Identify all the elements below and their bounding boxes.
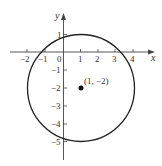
x-tick-label: 3 <box>112 54 117 64</box>
x-axis-label: x <box>150 52 156 63</box>
center-point-label: (1, −2) <box>84 76 109 86</box>
y-tick-label: 1 <box>57 30 62 40</box>
center-point <box>79 86 84 91</box>
x-tick-label: 2 <box>95 54 100 64</box>
y-tick-label: −4 <box>51 119 61 129</box>
y-tick-label: −2 <box>51 83 61 93</box>
x-tick-label: 0 <box>57 54 62 64</box>
x-tick-label: 4 <box>130 54 135 64</box>
diagram-canvas: x y −2 −1 0 1 2 3 4 1 −1 −2 −3 −4 −5 (1,… <box>0 0 162 166</box>
y-axis-arrow-icon <box>61 13 66 20</box>
y-tick-label: −5 <box>51 137 61 147</box>
x-tick-label: −2 <box>20 54 30 64</box>
coordinate-diagram: x y −2 −1 0 1 2 3 4 1 −1 −2 −3 −4 −5 (1,… <box>0 0 162 166</box>
y-axis-label: y <box>54 10 60 21</box>
x-tick-label: 1 <box>78 54 83 64</box>
y-tick-label: −3 <box>51 101 61 111</box>
x-tick-label: −1 <box>38 54 48 64</box>
y-tick-label: −1 <box>51 65 61 75</box>
